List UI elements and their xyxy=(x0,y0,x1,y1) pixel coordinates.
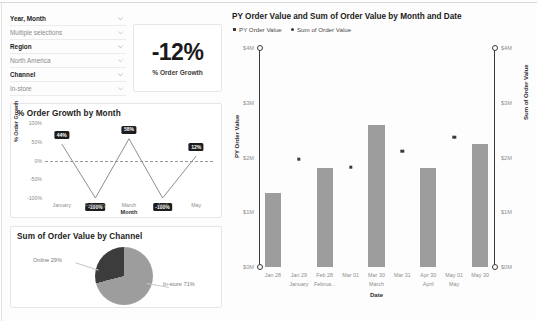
combo-chart-title: PY Order Value and Sum of Order Value by… xyxy=(232,12,462,21)
chevron-down-icon[interactable] xyxy=(117,56,124,63)
combo-chart-y-tick: $4M xyxy=(243,45,254,51)
combo-chart-x-tick: Feb 28 xyxy=(316,272,333,278)
line-chart-data-label: 44% xyxy=(54,131,69,139)
line-chart-data-label: 58% xyxy=(121,126,136,134)
combo-chart-y-tick: $0M xyxy=(243,264,254,270)
line-chart-data-label: 12% xyxy=(189,143,204,151)
combo-chart-y-axis-title: PY Order Value xyxy=(234,115,240,158)
line-chart-x-tick: January xyxy=(53,202,71,208)
pie-label-instore: In-store 71% xyxy=(163,281,195,287)
scatter-marker[interactable] xyxy=(297,157,300,160)
filter-year-month[interactable]: Year, Month xyxy=(10,12,126,26)
pie-chart-title: Sum of Order Value by Channel xyxy=(17,232,215,241)
combo-chart-y2-tick: $3M xyxy=(501,100,512,106)
line-chart-y-axis-title: % Order Growth xyxy=(13,101,19,142)
bar[interactable] xyxy=(472,144,488,267)
right-axis-knob-top[interactable] xyxy=(492,45,498,51)
line-chart-x-tick: April xyxy=(157,202,167,208)
line-chart-y-tick: -50% xyxy=(30,176,42,182)
filter-label: Channel xyxy=(10,71,35,78)
line-chart-y-tick: 50% xyxy=(32,139,42,145)
combo-chart-month-group: Februa... xyxy=(314,281,336,287)
combo-chart-month-group: March xyxy=(369,281,384,287)
left-axis-line[interactable] xyxy=(259,48,260,267)
combo-chart-x-tick: Mar 30 xyxy=(368,272,385,278)
left-divider xyxy=(1,2,2,321)
line-chart-card[interactable]: % Order Growth by Month % Order Growth 1… xyxy=(10,103,222,218)
pie-slices[interactable] xyxy=(95,247,153,305)
kpi-card-order-growth[interactable]: -12% % Order Growth xyxy=(133,24,222,92)
bar[interactable] xyxy=(317,168,333,267)
chevron-down-icon[interactable] xyxy=(117,14,124,21)
pie-chart-plot xyxy=(95,247,153,305)
combo-chart-x-tick: Jan 29 xyxy=(291,272,307,278)
line-chart-y-tick: 0% xyxy=(35,158,43,164)
combo-chart-y-tick: $2M xyxy=(243,155,254,161)
legend-item-sum-of-order-value[interactable]: Sum of Order Value xyxy=(291,26,351,33)
line-chart-y-tick: 100% xyxy=(29,120,42,126)
chevron-down-icon[interactable] xyxy=(117,28,124,35)
combo-chart-x-tick: Jan 28 xyxy=(265,272,281,278)
legend-label: PY Order Value xyxy=(239,26,282,33)
line-chart-x-tick: March xyxy=(122,202,136,208)
scatter-marker[interactable] xyxy=(401,149,404,152)
combo-chart-y2-tick: $0M xyxy=(501,264,512,270)
legend-square-icon xyxy=(233,28,236,31)
bar[interactable] xyxy=(420,168,436,267)
filter-value: North America xyxy=(10,57,51,64)
left-axis-knob-top[interactable] xyxy=(257,45,263,51)
filter-label: Year, Month xyxy=(10,15,46,22)
combo-chart-y2-tick: $1M xyxy=(501,209,512,215)
combo-chart-y-tick: $3M xyxy=(243,100,254,106)
left-axis-knob-bottom[interactable] xyxy=(257,264,263,270)
filter-region-value[interactable]: North America xyxy=(10,54,126,68)
chevron-down-icon[interactable] xyxy=(117,70,124,77)
bar[interactable] xyxy=(265,193,281,267)
combo-chart-legend: PY Order Value Sum of Order Value xyxy=(233,26,351,33)
filter-region[interactable]: Region xyxy=(10,40,126,54)
right-axis-knob-bottom[interactable] xyxy=(492,264,498,270)
filter-channel[interactable]: Channel xyxy=(10,68,126,82)
scatter-marker[interactable] xyxy=(452,136,455,139)
filter-value: Multiple selections xyxy=(10,29,62,36)
combo-chart-y2-tick: $4M xyxy=(501,45,512,51)
line-chart-x-axis-title: Month xyxy=(121,209,138,215)
combo-chart-y2-tick: $2M xyxy=(501,155,512,161)
filter-channel-value[interactable]: In-store xyxy=(10,82,126,96)
filter-year-month-value[interactable]: Multiple selections xyxy=(10,26,126,40)
line-chart-x-tick: May xyxy=(191,202,201,208)
filter-panel: Year, Month Multiple selections Region N… xyxy=(10,12,126,96)
right-axis-line[interactable] xyxy=(494,48,495,267)
combo-chart-x-tick: Mar 01 xyxy=(342,272,359,278)
combo-chart-y2-axis-title: Sum of Order Value xyxy=(523,64,529,120)
combo-chart-x-axis-title: Date xyxy=(370,292,383,298)
line-chart-title: % Order Growth by Month xyxy=(17,109,215,118)
legend-label: Sum of Order Value xyxy=(297,26,351,33)
combo-chart-y-tick: $1M xyxy=(243,209,254,215)
line-chart-y-tick: -100% xyxy=(27,195,42,201)
chevron-down-icon[interactable] xyxy=(117,42,124,49)
combo-chart-month-group: May xyxy=(449,281,459,287)
combo-chart-x-tick: Apr 30 xyxy=(420,272,436,278)
bar[interactable] xyxy=(368,125,384,267)
combo-chart-plot: Date $0M$1M$2M$3M$4M$0M$1M$2M$3M$4MJan 2… xyxy=(260,48,493,267)
line-chart-x-tick: February xyxy=(85,202,106,208)
combo-chart-x-tick: Mar 31 xyxy=(394,272,411,278)
chevron-down-icon[interactable] xyxy=(117,84,124,91)
combo-chart: PY Order Value and Sum of Order Value by… xyxy=(228,10,531,315)
line-chart-series xyxy=(45,123,213,198)
pie-chart-card[interactable]: Sum of Order Value by Channel Online 29%… xyxy=(10,226,222,308)
scatter-marker[interactable] xyxy=(349,166,352,169)
line-chart-plot: 100%50%0%-50%-100%44%-100%58%-100%12%Jan… xyxy=(45,123,213,198)
kpi-label: % Order Growth xyxy=(152,69,203,76)
kpi-value: -12% xyxy=(152,41,204,64)
legend-item-py-order-value[interactable]: PY Order Value xyxy=(233,26,282,33)
legend-dot-icon xyxy=(291,28,294,31)
combo-chart-x-tick: May 30 xyxy=(471,272,489,278)
pie-label-online: Online 29% xyxy=(33,257,62,263)
combo-chart-x-tick: May 01 xyxy=(445,272,463,278)
combo-chart-month-group: April xyxy=(423,281,434,287)
filter-value: In-store xyxy=(10,85,32,92)
filter-label: Region xyxy=(10,43,32,50)
top-divider xyxy=(0,2,537,3)
